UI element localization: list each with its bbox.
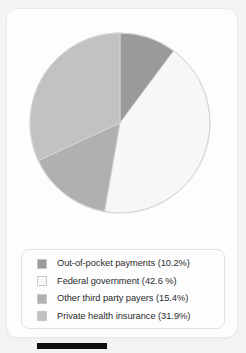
legend-label-out-of-pocket-payments: Out-of-pocket payments (10.2%) bbox=[57, 259, 190, 268]
legend-item-out-of-pocket-payments[interactable]: Out-of-pocket payments (10.2%) bbox=[22, 255, 224, 273]
legend-swatch-out-of-pocket-payments bbox=[37, 259, 47, 269]
legend-label-private-health-insurance: Private health insurance (31.9%) bbox=[57, 312, 190, 321]
figure-card: Out-of-pocket payments (10.2%) Federal g… bbox=[6, 8, 238, 338]
pie-chart-area bbox=[7, 9, 239, 237]
legend-item-federal-government[interactable]: Federal government (42.6 %) bbox=[22, 273, 224, 291]
legend-swatch-federal-government bbox=[37, 276, 47, 286]
bottom-black-bar bbox=[37, 343, 107, 349]
legend-item-private-health-insurance[interactable]: Private health insurance (31.9%) bbox=[22, 308, 224, 326]
legend-swatch-private-health-insurance bbox=[37, 311, 47, 321]
legend-label-other-third-party-payers: Other third party payers (15.4%) bbox=[57, 294, 188, 303]
legend-label-federal-government: Federal government (42.6 %) bbox=[57, 277, 177, 286]
legend-swatch-other-third-party-payers bbox=[37, 294, 47, 304]
pie-chart bbox=[7, 9, 239, 237]
pie-slice-group bbox=[30, 33, 210, 213]
legend-item-other-third-party-payers[interactable]: Other third party payers (15.4%) bbox=[22, 290, 224, 308]
chart-legend: Out-of-pocket payments (10.2%) Federal g… bbox=[21, 249, 225, 329]
